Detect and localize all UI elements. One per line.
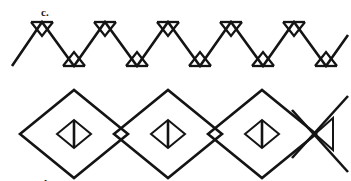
diamond-unit (20, 90, 128, 178)
panel-c-label: c. (41, 7, 49, 18)
diamond-unit (114, 90, 222, 178)
panel-c-zigzag: c. (0, 0, 351, 90)
panel-d-label: d. (41, 178, 50, 181)
zigzag-pattern-drawing (0, 0, 351, 90)
truncated-upper-stroke (292, 96, 348, 158)
truncated-lower-stroke (292, 110, 348, 172)
zigzag-main-polyline (12, 22, 348, 66)
panel-d-diamonds: d. (0, 88, 351, 181)
diamond-unit-truncated (292, 96, 348, 172)
diamond-unit (208, 90, 316, 178)
figure-canvas: c. (0, 0, 351, 181)
diamond-pattern-drawing (0, 88, 351, 181)
